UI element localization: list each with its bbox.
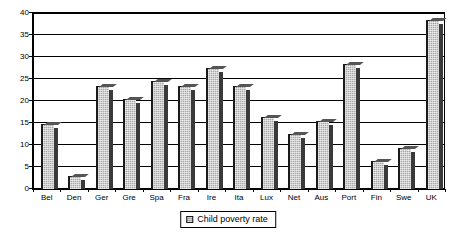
bar-top-face	[319, 119, 337, 122]
bar-spa	[151, 81, 164, 189]
x-axis-tick-label-ita: Ita	[225, 192, 252, 204]
x-axis-tick-label-fin: Fin	[363, 192, 390, 204]
bar-top-face	[44, 122, 62, 125]
bar-lux	[261, 117, 274, 189]
x-axis-tick	[390, 189, 391, 192]
x-axis-labels: BelDenGerGreSpaFraIreItaLuxNetAusPortFin…	[33, 192, 445, 206]
bar-side-face	[219, 72, 223, 189]
x-axis-tick	[335, 189, 336, 192]
x-axis-tick	[88, 189, 89, 192]
legend-label: Child poverty rate	[197, 214, 268, 224]
bar-top-face	[374, 159, 392, 162]
bar-slot	[115, 13, 142, 189]
x-axis-tick-label-lux: Lux	[253, 192, 280, 204]
chart-legend: Child poverty rate	[180, 211, 276, 228]
x-axis-tick	[280, 189, 281, 192]
bar-uk	[426, 20, 439, 189]
bar-slot	[225, 13, 252, 189]
bar-slot	[198, 13, 225, 189]
bar-top-face	[429, 18, 447, 21]
bar-side-face	[301, 138, 305, 189]
x-axis-tick-label-den: Den	[60, 192, 87, 204]
bar-slot	[33, 13, 60, 189]
bar-aus	[316, 121, 329, 189]
x-axis-tick-label-net: Net	[280, 192, 307, 204]
bar-swe	[398, 148, 411, 189]
x-axis-tick-label-aus: Aus	[308, 192, 335, 204]
bar-side-face	[356, 68, 360, 189]
x-axis-tick-label-swe: Swe	[390, 192, 417, 204]
x-axis-tick-label-spa: Spa	[143, 192, 170, 204]
x-axis-tick	[33, 189, 34, 192]
y-axis-line	[32, 13, 34, 190]
bar-side-face	[384, 165, 388, 189]
bar-fin	[371, 161, 384, 189]
x-axis-tick	[363, 189, 364, 192]
bar-side-face	[439, 24, 443, 189]
x-axis-tick	[253, 189, 254, 192]
x-axis-tick	[115, 189, 116, 192]
x-axis-tick-label-port: Port	[335, 192, 362, 204]
bar-top-face	[154, 79, 172, 82]
bar-slot	[143, 13, 170, 189]
y-axis-ticks	[0, 13, 33, 189]
legend-swatch-icon	[186, 216, 193, 223]
bar-bel	[41, 124, 54, 189]
x-axis-tick	[198, 189, 199, 192]
x-axis-tick-label-uk: UK	[418, 192, 445, 204]
bar-top-face	[236, 84, 254, 87]
bar-slot	[60, 13, 87, 189]
bar-top-face	[99, 84, 117, 87]
bar-ger	[96, 86, 109, 189]
x-axis-line	[33, 189, 445, 190]
x-axis-tick-label-fra: Fra	[170, 192, 197, 204]
x-axis-tick-label-ger: Ger	[88, 192, 115, 204]
bar-side-face	[164, 85, 168, 189]
bar-den	[68, 176, 81, 189]
bar-side-face	[54, 128, 58, 189]
bar-side-face	[81, 180, 85, 189]
x-axis-tick	[225, 189, 226, 192]
bar-top-face	[291, 132, 309, 135]
bar-top-face	[346, 62, 364, 65]
x-axis-tick	[143, 189, 144, 192]
bar-top-face	[209, 66, 227, 69]
bar-slot	[88, 13, 115, 189]
x-axis-tick-label-gre: Gre	[115, 192, 142, 204]
bar-gre	[123, 99, 136, 189]
x-axis-tick	[60, 189, 61, 192]
bar-fra	[178, 86, 191, 189]
bar-top-face	[181, 84, 199, 87]
bar-side-face	[411, 152, 415, 189]
bar-chart: 0510152025303540 BelDenGerGreSpaFraIreIt…	[0, 0, 456, 243]
x-axis-tick	[418, 189, 419, 192]
bar-ita	[233, 86, 246, 189]
bars-layer	[33, 13, 445, 189]
x-axis-tick	[445, 189, 446, 192]
bar-slot	[308, 13, 335, 189]
bar-top-face	[126, 97, 144, 100]
x-axis-tick	[170, 189, 171, 192]
plot-area-wrapper	[33, 13, 445, 189]
bar-slot	[335, 13, 362, 189]
x-axis-tick-label-ire: Ire	[198, 192, 225, 204]
x-axis-tick	[308, 189, 309, 192]
bar-slot	[418, 13, 445, 189]
bar-side-face	[109, 90, 113, 189]
bar-side-face	[246, 90, 250, 189]
x-axis-tick-label-bel: Bel	[33, 192, 60, 204]
bar-top-face	[264, 115, 282, 118]
bar-side-face	[274, 121, 278, 189]
bar-top-face	[71, 174, 89, 177]
bar-slot	[390, 13, 417, 189]
bar-port	[343, 64, 356, 189]
bar-slot	[170, 13, 197, 189]
bar-slot	[363, 13, 390, 189]
bar-net	[288, 134, 301, 189]
bar-slot	[280, 13, 307, 189]
bar-top-face	[401, 146, 419, 149]
bar-side-face	[136, 103, 140, 189]
bar-side-face	[191, 90, 195, 189]
bar-slot	[253, 13, 280, 189]
bar-ire	[206, 68, 219, 189]
